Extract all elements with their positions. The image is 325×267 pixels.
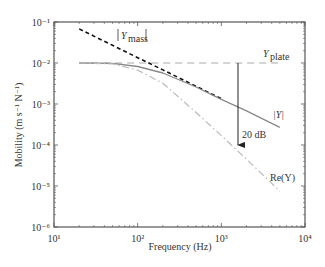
svg-text:Y: Y	[263, 48, 270, 59]
y-tick-label: 10⁻²	[32, 58, 50, 69]
y-tick-label: 10⁻⁵	[31, 181, 50, 192]
series-line	[79, 63, 280, 127]
series-line	[79, 63, 280, 191]
x-tick-label: 10³	[215, 233, 228, 244]
y-tick-label: 10⁻³	[32, 99, 50, 110]
x-tick-label: 10²	[131, 233, 144, 244]
y-tick-label: 10⁻⁶	[31, 222, 50, 233]
annotation-ymass: Y mass	[118, 29, 148, 44]
annotation-y-abs: |Y|	[273, 109, 284, 120]
y-axis-label: Mobility (m s⁻¹ N⁻¹)	[13, 83, 25, 168]
annotation-yplate: Y plate	[263, 48, 290, 62]
x-tick-label: 10⁴	[298, 233, 312, 244]
annotation-re-y: Re(Y)	[270, 172, 295, 184]
svg-text:plate: plate	[270, 51, 290, 62]
y-tick-label: 10⁻⁴	[31, 140, 50, 151]
x-axis-label: Frequency (Hz)	[148, 241, 211, 253]
svg-text:mass: mass	[128, 33, 148, 44]
svg-text:Y: Y	[121, 30, 128, 41]
series-group	[79, 29, 280, 191]
y-tick-label: 10⁻¹	[32, 17, 50, 28]
x-tick-label: 10¹	[48, 233, 61, 244]
mobility-chart: 10¹10²10³10⁴10⁻¹10⁻²10⁻³10⁻⁴10⁻⁵10⁻⁶ Y m…	[0, 0, 325, 267]
annotation-20db: 20 dB	[242, 129, 267, 140]
